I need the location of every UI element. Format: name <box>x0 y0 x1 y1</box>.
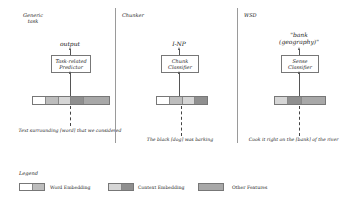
caption-wsd: Cook it right on the [bank] of the river <box>240 137 347 142</box>
dashed-input-line <box>299 106 300 136</box>
panel-title-wsd: WSD <box>244 12 257 18</box>
word-embedding-swatch <box>19 183 45 191</box>
word-embedding-segment <box>157 97 170 104</box>
output-label-chunker: I-NP <box>164 40 194 47</box>
legend-label: Context Embedding <box>138 185 184 190</box>
panel-title-generic: Generic task <box>20 12 46 24</box>
sense-classifier-box: Sense Classifier <box>281 55 319 73</box>
legend-item-word-embedding: Word Embedding <box>19 183 90 191</box>
output-label-generic: output <box>50 40 90 47</box>
task-predictor-box: Task-related Predictor <box>51 55 91 73</box>
context-embedding-segment <box>275 97 288 104</box>
context-embedding-segment <box>71 97 84 104</box>
output-label-wsd: "bank (geography)" <box>276 31 322 45</box>
panel-separator <box>237 8 238 143</box>
feature-bar-wsd <box>274 96 326 105</box>
arrow-line <box>299 73 300 96</box>
other-features-swatch <box>198 183 224 191</box>
context-embedding-segment <box>183 97 195 104</box>
dashed-input-line <box>70 106 71 126</box>
word-embedding-segment <box>170 97 183 104</box>
legend-title: Legend <box>19 170 38 176</box>
word-embedding-segment <box>46 97 59 104</box>
word-embedding-segment <box>33 97 46 104</box>
arrow-line <box>70 73 71 96</box>
panel-title-chunker: Chunker <box>122 12 144 18</box>
legend-label: Other Features <box>232 185 267 190</box>
legend-item-other-features: Other Features <box>198 183 267 191</box>
other-features-segment <box>84 97 109 104</box>
caption-chunker: The black [dog] was barking <box>132 137 228 142</box>
arrow-line <box>179 73 180 96</box>
legend-label: Word Embedding <box>50 185 90 190</box>
caption-generic: Text surrounding [word] that we consider… <box>14 128 126 133</box>
other-features-segment <box>302 97 325 104</box>
dashed-input-line <box>181 106 182 136</box>
feature-bar-generic <box>32 96 110 105</box>
panel-separator <box>115 8 116 143</box>
feature-bar-chunker <box>156 96 208 105</box>
context-embedding-segment <box>288 97 302 104</box>
context-embedding-segment <box>195 97 207 104</box>
legend-item-context-embedding: Context Embedding <box>108 183 184 191</box>
context-embedding-swatch <box>108 183 134 191</box>
chunk-classifier-box: Chunk Classifier <box>161 55 199 73</box>
context-embedding-segment <box>59 97 71 104</box>
